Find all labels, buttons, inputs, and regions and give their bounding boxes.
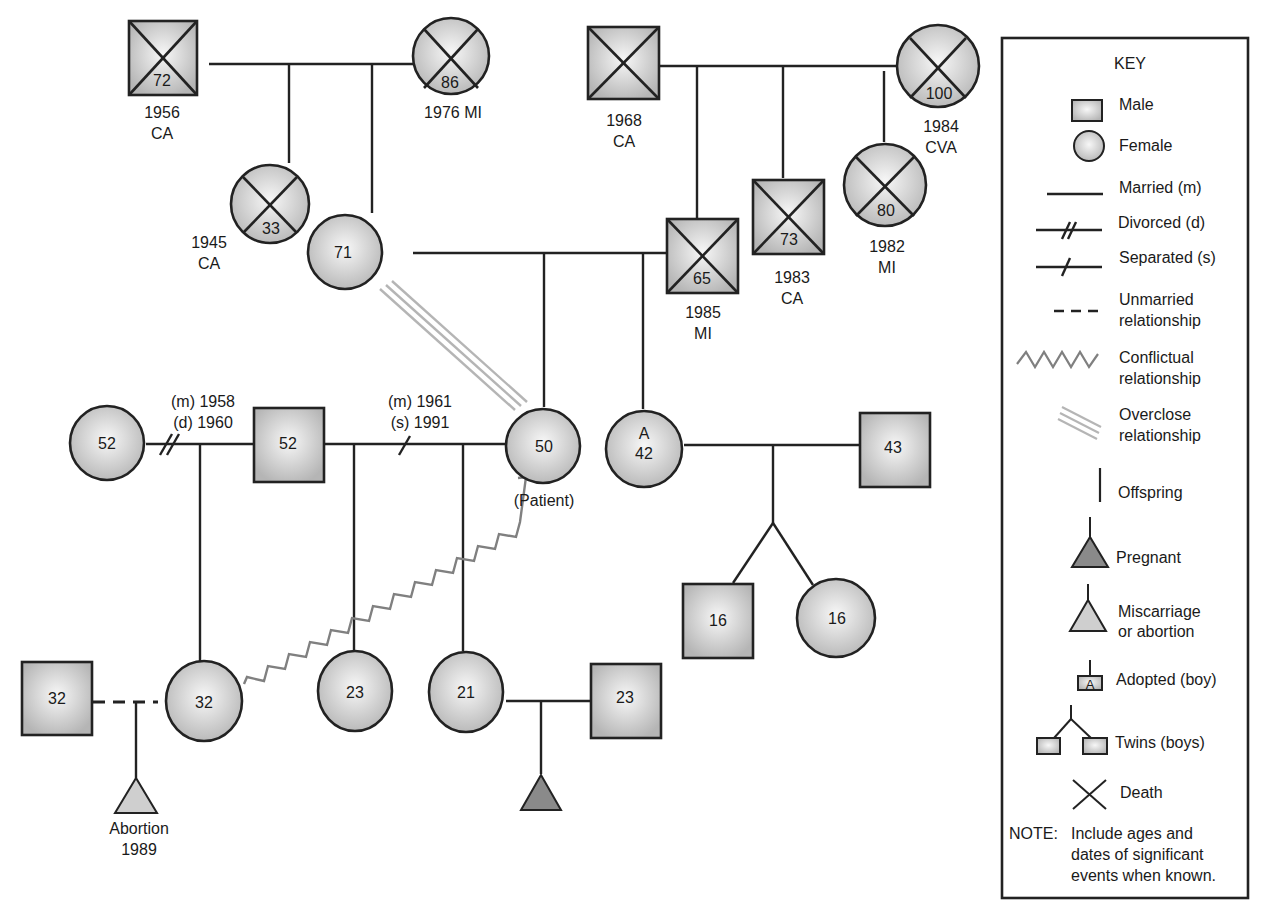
abortion-1989[interactable]: Abortion 1989 [109,778,169,858]
age-label: 73 [780,231,798,248]
legend-label-offspring: Offspring [1118,484,1183,501]
death-cause-label: MI [878,259,896,276]
age-label: 42 [635,445,653,462]
separation-slash [399,436,410,455]
age-label: 50 [535,438,553,455]
death-cause-label: CA [781,290,804,307]
person-grandfather-72[interactable]: 72 1956 CA [129,21,197,142]
death-year-label: 1968 [606,112,642,129]
person-sister-42-adopted[interactable]: A 42 [606,411,682,487]
person-daughter-21[interactable]: 21 [429,652,503,732]
legend-title: KEY [1114,55,1146,72]
second-marriage-date: (m) 1961 [388,393,452,410]
adopted-mark: A [639,425,650,442]
person-patient-50[interactable]: 50 (Patient) [506,409,580,509]
first-marriage-date: (m) 1958 [171,393,235,410]
pregnancy[interactable] [521,775,561,810]
miscarriage-triangle-icon [115,778,157,813]
person-husband-52[interactable]: 52 [254,408,324,482]
legend-label-twins: Twins (boys) [1115,734,1205,751]
person-aunt-33[interactable]: 33 1945 CA [191,165,309,272]
death-year-label: 1945 [191,234,227,251]
age-label: 23 [346,684,364,701]
legend-label-divorced: Divorced (d) [1118,214,1205,231]
person-stepdaughter-32[interactable]: 32 [166,661,242,741]
person-mother-71[interactable]: 71 [308,215,382,289]
age-label: 52 [98,435,116,452]
male-square-icon [1072,100,1102,121]
age-label: 43 [884,439,902,456]
death-cause-label: MI [694,325,712,342]
legend-label-overclose-2: relationship [1119,427,1201,444]
person-twin-boy-16[interactable]: 16 [683,584,753,658]
legend-label-conflictual-1: Conflictual [1119,349,1194,366]
legend-label-female: Female [1119,137,1172,154]
legend-label-death: Death [1120,784,1163,801]
legend-label-adopted: Adopted (boy) [1116,671,1217,688]
age-label: 52 [279,435,297,452]
person-uncle-73[interactable]: 73 1983 CA [753,180,824,307]
legend-label-overclose-1: Overclose [1119,406,1191,423]
legend-label-pregnant: Pregnant [1116,549,1181,566]
age-label: 33 [262,220,280,237]
death-year-label: 1984 [923,118,959,135]
age-label: 100 [926,85,953,102]
legend-label-miscarriage-2: or abortion [1118,623,1195,640]
note-line-1: Include ages and [1071,825,1193,842]
female-circle-icon [1074,131,1104,161]
death-cause-label: CA [198,255,221,272]
age-label: 86 [441,74,459,91]
death-year-label: 1983 [774,269,810,286]
death-year-label: 1956 [144,104,180,121]
age-label: 80 [877,202,895,219]
person-grandmother-100[interactable]: 100 1984 CVA [897,25,979,156]
age-label: 71 [334,244,352,261]
note-line-3: events when known. [1071,867,1216,884]
legend-label-unmarried-1: Unmarried [1119,291,1194,308]
abortion-label: Abortion [109,820,169,837]
person-partner-32[interactable]: 32 [22,662,92,735]
person-ex-wife-52[interactable]: 52 [70,406,144,480]
conflictual-relationship-line [244,477,526,684]
pregnant-triangle-icon [521,775,561,810]
legend-label-miscarriage-1: Miscarriage [1118,603,1201,620]
death-cause-label: CA [613,133,636,150]
person-brother-in-law-43[interactable]: 43 [860,413,930,487]
death-cause-label: CVA [925,139,957,156]
death-note-label: 1976 MI [424,104,482,121]
genogram-diagram: 72 1956 CA 86 1976 MI 33 1945 CA 71 1968… [0,0,1266,910]
age-label: 32 [48,690,66,707]
legend-label-married: Married (m) [1119,179,1202,196]
death-cause-label: CA [151,125,174,142]
age-label: 16 [828,610,846,627]
person-aunt-80[interactable]: 80 1982 MI [844,144,926,276]
person-twin-girl-16[interactable]: 16 [797,579,875,657]
legend-label-conflictual-2: relationship [1119,370,1201,387]
separation-date: (s) 1991 [391,414,450,431]
death-year-label: 1985 [685,304,721,321]
note-prefix: NOTE: [1009,825,1058,842]
person-son-in-law-23[interactable]: 23 [591,664,661,738]
legend-key: KEY Male Female Married (m) Divorced (d)… [1002,38,1248,898]
note-line-2: dates of significant [1071,846,1204,863]
age-label: 23 [616,689,634,706]
legend-label-male: Male [1119,96,1154,113]
age-label: 32 [195,694,213,711]
first-divorce-date: (d) 1960 [173,414,233,431]
twin-branch-boy [733,523,773,583]
person-father-65[interactable]: 65 1985 MI [667,219,738,342]
age-label: 65 [693,270,711,287]
age-label: 16 [709,612,727,629]
age-label: 72 [153,72,171,89]
overclose-relationship-line [380,281,527,410]
person-grandmother-86[interactable]: 86 1976 MI [413,18,489,121]
person-daughter-23[interactable]: 23 [318,651,392,731]
legend-label-unmarried-2: relationship [1119,312,1201,329]
death-year-label: 1982 [869,238,905,255]
patient-label: (Patient) [514,492,574,509]
age-label: 21 [457,684,475,701]
abortion-year: 1989 [121,841,157,858]
legend-label-separated: Separated (s) [1119,249,1216,266]
adopted-mark-icon: A [1086,677,1095,692]
person-grandfather-deceased[interactable]: 1968 CA [588,27,659,150]
